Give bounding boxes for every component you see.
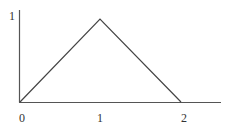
x-tick-2: 2 xyxy=(181,112,187,124)
x-tick-1: 1 xyxy=(97,112,103,124)
triangle-series xyxy=(20,19,181,102)
plot-area xyxy=(0,0,232,130)
x-tick-0: 0 xyxy=(19,112,25,124)
y-tick-1: 1 xyxy=(9,10,15,22)
